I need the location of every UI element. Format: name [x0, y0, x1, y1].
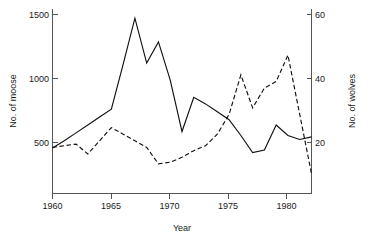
wolves-line-series — [53, 55, 312, 174]
chart-canvas: 1500 1000 500 60 40 20 1960 1965 1970 — [0, 0, 372, 243]
y-left-axis-title: No. of moose — [8, 74, 18, 128]
x-axis-ticks — [53, 194, 287, 199]
x-axis-tick-labels: 1960 1965 1970 1975 1980 — [42, 201, 296, 211]
left-tick-label-500: 500 — [34, 138, 49, 148]
moose-wolves-population-chart: 1500 1000 500 60 40 20 1960 1965 1970 — [0, 0, 372, 243]
x-axis-title: Year — [173, 223, 191, 233]
x-tick-label-1975: 1975 — [218, 201, 238, 211]
right-axis-ticks — [307, 15, 312, 143]
right-axis-tick-labels: 60 40 20 — [315, 10, 325, 148]
moose-line-series — [53, 18, 312, 152]
right-tick-label-40: 40 — [315, 74, 325, 84]
right-tick-label-60: 60 — [315, 10, 325, 20]
y-right-axis-title: No. of wolves — [347, 73, 357, 128]
left-tick-label-1000: 1000 — [29, 74, 49, 84]
left-axis-ticks — [53, 15, 58, 143]
left-tick-label-1500: 1500 — [29, 10, 49, 20]
x-tick-label-1960: 1960 — [42, 201, 62, 211]
x-tick-label-1980: 1980 — [276, 201, 296, 211]
left-axis-tick-labels: 1500 1000 500 — [29, 10, 49, 148]
x-tick-label-1965: 1965 — [101, 201, 121, 211]
right-tick-label-20: 20 — [315, 138, 325, 148]
x-tick-label-1970: 1970 — [159, 201, 179, 211]
